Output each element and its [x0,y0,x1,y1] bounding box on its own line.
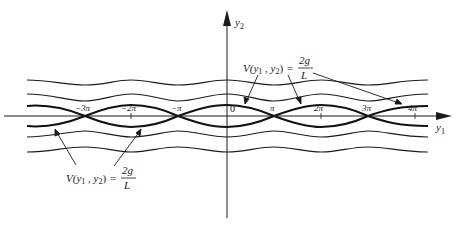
tick-label-negpi: −π [171,103,182,113]
annotation-bottom-numerator: 2g [122,164,134,176]
annotation-top: V(y1 , y2) = 2g L [243,54,402,104]
axes [4,22,440,218]
annotation-top-pointers [244,73,402,104]
annotation-bottom-denominator: L [123,179,130,191]
y2-axis-arrowhead-icon [223,10,231,26]
tick-label-2pi: 2π [314,103,324,113]
y1-axis-arrowhead-icon [436,112,452,120]
annotation-top-denominator: L [300,69,307,81]
annotation-top-numerator: 2g [299,54,311,66]
annotation-bottom-lhs: V(y1 , y2) [66,172,106,186]
annotation-bottom-equals: = [110,172,116,184]
tick-label-3pi: 3π [361,103,372,113]
tick-label-neg3pi: −3π [75,103,91,113]
phase-portrait-diagram: y2 y1 0 −3π −2π −π π 2π 3π 4π V(y1 , y2)… [0,0,466,227]
annotation-top-equals: = [287,62,293,74]
y2-axis-label: y2 [234,16,244,31]
y1-axis-label: y1 [435,121,445,136]
annotation-top-lhs: V(y1 , y2) [243,62,283,76]
annotation-bottom: V(y1 , y2) = 2g L [55,129,141,191]
tick-label-neg2pi: −2π [121,103,137,113]
origin-label: 0 [230,103,235,114]
tick-label-4pi: 4π [408,103,418,113]
tick-label-pi: π [270,103,275,113]
